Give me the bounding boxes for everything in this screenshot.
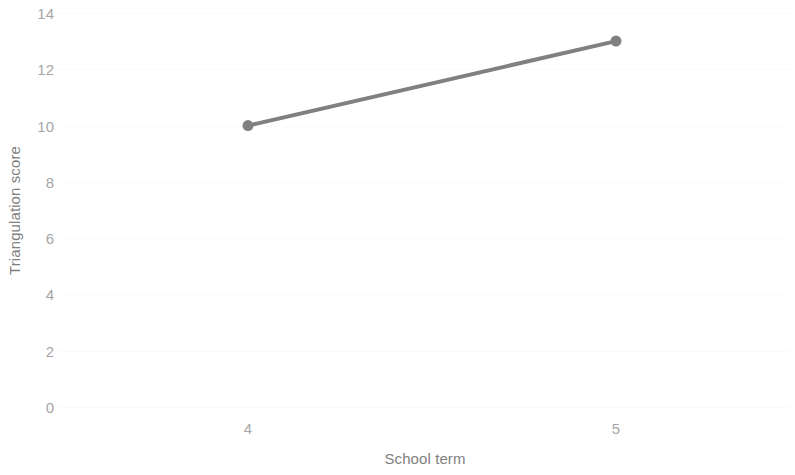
x-axis-title: School term <box>60 450 790 467</box>
data-point-marker <box>611 36 622 47</box>
data-point-marker <box>243 120 254 131</box>
x-tick-label: 4 <box>228 420 268 437</box>
y-tick-label: 2 <box>8 342 54 359</box>
plot-area <box>0 0 795 475</box>
y-tick-label: 12 <box>8 61 54 78</box>
line-chart: 02468101214 45 Triangulation score Schoo… <box>0 0 795 475</box>
x-tick-label: 5 <box>596 420 636 437</box>
y-tick-label: 6 <box>8 230 54 247</box>
y-tick-label: 8 <box>8 173 54 190</box>
y-tick-label: 10 <box>8 117 54 134</box>
y-tick-label: 4 <box>8 286 54 303</box>
series-line-triangulation-score <box>248 41 616 126</box>
y-axis-ticks: 02468101214 <box>0 0 54 475</box>
y-tick-label: 0 <box>8 399 54 416</box>
y-tick-label: 14 <box>8 5 54 22</box>
series-layer <box>0 0 795 475</box>
